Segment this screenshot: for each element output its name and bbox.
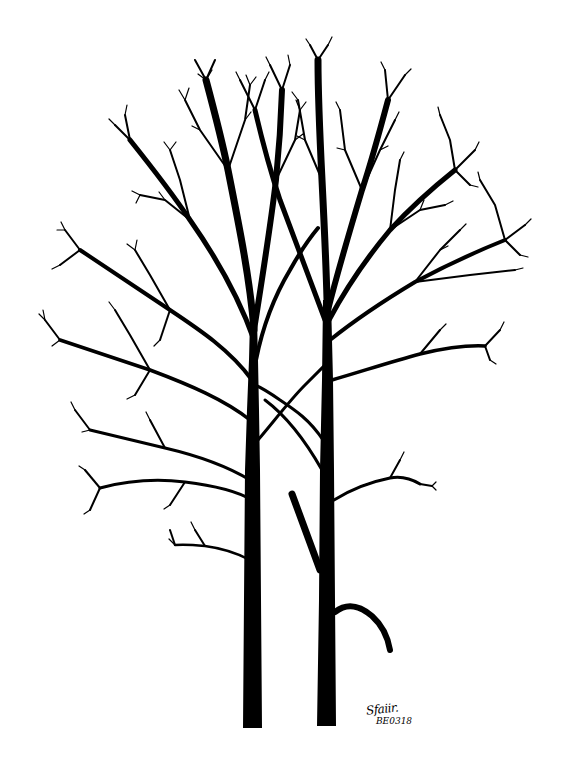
artist-signature: Sfaiir. BE0318 [366, 702, 416, 736]
signature-date: BE0318 [376, 716, 412, 726]
tree-drawing [0, 0, 567, 780]
